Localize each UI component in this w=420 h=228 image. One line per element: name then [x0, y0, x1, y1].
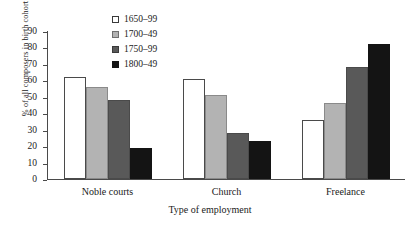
y-tick-mark: 80 [43, 48, 47, 49]
plot-area: 0102030405060708090 [47, 31, 405, 180]
legend-item: 1650–99 [112, 12, 157, 27]
bar-series-group [48, 31, 405, 179]
legend-label: 1750–99 [124, 45, 157, 55]
bar-freelance-1800-49 [368, 44, 390, 179]
y-tick-mark: 0 [43, 180, 47, 181]
bar-freelance-1650-99 [302, 120, 324, 179]
y-tick-label: 10 [28, 159, 38, 169]
legend-item: 1700–49 [112, 27, 157, 42]
legend-label: 1650–99 [124, 15, 157, 25]
bar-noble-courts-1750-99 [108, 100, 130, 179]
y-tick-mark: 20 [43, 147, 47, 148]
y-tick-mark: 70 [43, 65, 47, 66]
y-tick-label: 70 [28, 60, 38, 70]
legend-swatch-icon [112, 46, 119, 53]
y-tick-label: 50 [28, 93, 38, 103]
bar-church-1650-99 [183, 79, 205, 179]
y-tick-mark: 40 [43, 114, 47, 115]
bar-noble-courts-1800-49 [130, 148, 152, 179]
legend-label: 1800–49 [124, 60, 157, 70]
legend-swatch-icon [112, 61, 119, 68]
y-tick-label: 40 [28, 109, 38, 119]
x-axis-label: Type of employment [0, 204, 420, 215]
y-tick-label: 20 [28, 142, 38, 152]
y-tick-mark: 30 [43, 131, 47, 132]
x-category-label: Noble courts [82, 186, 133, 197]
y-tick-mark: 10 [43, 164, 47, 165]
legend-item: 1800–49 [112, 57, 157, 72]
x-axis-line [47, 179, 405, 180]
y-tick-label: 90 [28, 27, 38, 37]
bar-freelance-1700-49 [324, 103, 346, 179]
y-tick-label: 80 [28, 44, 38, 54]
legend: 1650–991700–491750–991800–49 [112, 12, 157, 72]
bar-church-1700-49 [205, 95, 227, 179]
bar-church-1800-49 [249, 141, 271, 179]
bar-noble-courts-1700-49 [86, 87, 108, 179]
legend-swatch-icon [112, 31, 119, 38]
bar-chart-figure: % of all composers in birth cohort 01020… [0, 0, 420, 228]
y-tick-label: 0 [32, 175, 37, 185]
y-tick-label: 60 [28, 77, 38, 87]
bar-freelance-1750-99 [346, 67, 368, 179]
y-tick-mark: 90 [43, 32, 47, 33]
y-tick-mark: 60 [43, 81, 47, 82]
y-tick-mark: 50 [43, 98, 47, 99]
y-tick-label: 30 [28, 126, 38, 136]
bar-noble-courts-1650-99 [64, 77, 86, 179]
legend-swatch-icon [112, 16, 119, 23]
x-category-label: Church [212, 186, 241, 197]
legend-label: 1700–49 [124, 30, 157, 40]
legend-item: 1750–99 [112, 42, 157, 57]
x-category-label: Freelance [326, 186, 365, 197]
bar-church-1750-99 [227, 133, 249, 179]
